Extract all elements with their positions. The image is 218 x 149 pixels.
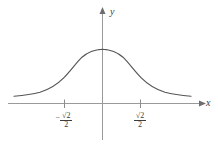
arrow-up-icon (100, 7, 106, 14)
arrow-right-icon (199, 101, 206, 107)
x-tick-label-left: − √2 2 (44, 112, 84, 129)
fraction-right: √2 2 (134, 112, 146, 129)
graph-figure: y x − √2 2 √2 2 (0, 0, 218, 149)
fraction-left: √2 2 (60, 112, 72, 129)
plot-canvas (0, 0, 218, 149)
fraction-left-denominator: 2 (60, 121, 72, 129)
minus-sign: − (56, 114, 61, 122)
y-axis-label: y (110, 7, 114, 17)
x-axis-label: x (206, 98, 210, 108)
x-tick-label-right: √2 2 (120, 112, 160, 129)
fraction-right-denominator: 2 (134, 121, 146, 129)
